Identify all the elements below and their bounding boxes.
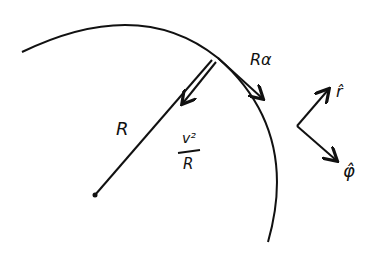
phi-hat-label: φ̂ xyxy=(343,160,355,181)
accel-numerator: v² xyxy=(182,130,196,146)
accel-denominator: R xyxy=(183,155,193,173)
r-hat-label: r̂ xyxy=(336,82,343,101)
fraction-bar xyxy=(178,150,200,153)
r-hat-arrow xyxy=(297,90,328,126)
diagram-canvas xyxy=(0,0,380,257)
center-point xyxy=(93,193,98,198)
arc-label: Rα xyxy=(250,50,272,69)
phi-hat-arrow xyxy=(297,126,336,160)
centripetal-arrow xyxy=(183,62,216,103)
radius-label: R xyxy=(116,118,129,139)
radius-line xyxy=(95,60,212,195)
